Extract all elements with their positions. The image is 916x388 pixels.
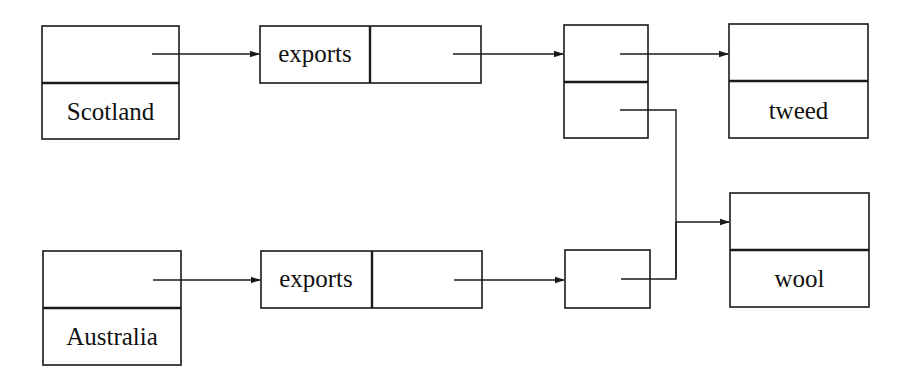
node-wool: wool bbox=[730, 193, 869, 307]
node-tweed: tweed bbox=[729, 24, 868, 138]
node-scotland-list bbox=[564, 25, 648, 138]
node-australia-exports: exports bbox=[261, 251, 482, 308]
australia-label: Australia bbox=[66, 323, 158, 350]
scotland-exports-label: exports bbox=[278, 40, 352, 67]
node-scotland: Scotland bbox=[42, 26, 179, 139]
node-scotland-exports: exports bbox=[260, 26, 481, 83]
node-australia: Australia bbox=[43, 251, 181, 365]
australia-exports-label: exports bbox=[279, 265, 353, 292]
export-structure-diagram: Scotland exports tweed wool Australia ex… bbox=[0, 0, 916, 388]
scotland-label: Scotland bbox=[67, 98, 155, 125]
wool-label: wool bbox=[775, 265, 825, 292]
tweed-label: tweed bbox=[769, 97, 829, 124]
